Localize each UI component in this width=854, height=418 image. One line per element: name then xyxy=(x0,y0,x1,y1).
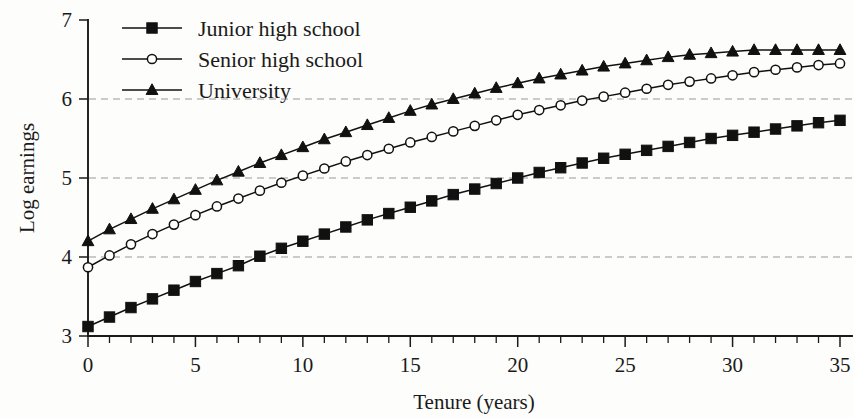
y-tick-label-3: 3 xyxy=(62,324,73,348)
data-point xyxy=(276,243,286,253)
x-tick-label-30: 30 xyxy=(722,353,743,377)
data-point xyxy=(513,173,523,183)
data-point xyxy=(491,178,501,188)
data-point xyxy=(706,133,716,143)
x-tick-label-10: 10 xyxy=(292,353,313,377)
data-point xyxy=(577,158,587,168)
legend-label: University xyxy=(198,78,291,103)
x-tick-label-20: 20 xyxy=(507,353,528,377)
data-point xyxy=(621,88,630,97)
data-point xyxy=(362,215,372,225)
data-point xyxy=(513,110,522,119)
data-point xyxy=(792,63,801,72)
data-point xyxy=(470,184,480,194)
data-point xyxy=(148,229,157,238)
series-junior-high-school xyxy=(83,115,845,332)
data-point xyxy=(556,101,565,110)
data-point xyxy=(771,65,780,74)
data-point xyxy=(770,44,782,55)
data-point xyxy=(791,44,803,55)
data-point xyxy=(706,74,715,83)
data-point xyxy=(748,44,760,55)
data-point xyxy=(190,184,202,195)
x-tick-label-5: 5 xyxy=(190,353,201,377)
data-point xyxy=(82,235,94,246)
data-point xyxy=(234,194,243,203)
data-point xyxy=(663,141,673,151)
data-point xyxy=(534,167,544,177)
data-point xyxy=(190,276,200,286)
data-point xyxy=(363,150,372,159)
legend-marker-filled-square xyxy=(147,23,157,33)
data-point xyxy=(255,186,264,195)
legend-label: Junior high school xyxy=(198,16,361,41)
x-axis-title: Tenure (years) xyxy=(413,390,535,414)
data-point xyxy=(83,321,93,331)
legend-marker-filled-triangle xyxy=(146,84,158,95)
data-point xyxy=(749,127,759,137)
data-point xyxy=(320,164,329,173)
data-point xyxy=(233,260,243,270)
legend-label: Senior high school xyxy=(198,47,363,72)
legend-marker-open-circle xyxy=(147,54,156,63)
series-path xyxy=(88,120,840,326)
legend-item-junior-high-school: Junior high school xyxy=(122,16,361,41)
data-point xyxy=(147,203,159,214)
data-point xyxy=(813,118,823,128)
data-point xyxy=(147,294,157,304)
y-tick-label-5: 5 xyxy=(62,166,73,190)
data-point xyxy=(212,268,222,278)
data-point xyxy=(341,157,350,166)
data-point xyxy=(212,202,221,211)
data-point xyxy=(492,116,501,125)
data-point xyxy=(685,77,694,86)
data-point xyxy=(83,263,92,272)
data-point xyxy=(319,229,329,239)
x-tick-label-25: 25 xyxy=(615,353,636,377)
data-point xyxy=(470,121,479,130)
data-point xyxy=(105,251,114,260)
data-point xyxy=(125,213,137,224)
data-point xyxy=(728,71,737,80)
data-point xyxy=(277,178,286,187)
data-point xyxy=(641,145,651,155)
x-tick-label-15: 15 xyxy=(400,353,421,377)
data-point xyxy=(448,189,458,199)
line-chart-canvas: 3456705101520253035Tenure (years)Log ear… xyxy=(0,0,854,418)
data-point xyxy=(792,121,802,131)
data-point xyxy=(599,92,608,101)
data-point xyxy=(255,251,265,261)
data-point xyxy=(642,84,651,93)
data-point xyxy=(835,115,845,125)
data-point xyxy=(169,220,178,229)
y-axis-title: Log earnings xyxy=(15,123,39,233)
data-point xyxy=(168,193,180,204)
data-point xyxy=(341,222,351,232)
data-point xyxy=(298,171,307,180)
x-tick-label-35: 35 xyxy=(830,353,851,377)
y-tick-label-4: 4 xyxy=(62,245,73,269)
y-tick-label-7: 7 xyxy=(62,8,73,32)
data-point xyxy=(684,137,694,147)
data-point xyxy=(535,105,544,114)
data-point xyxy=(770,124,780,134)
data-point xyxy=(727,130,737,140)
data-point xyxy=(298,236,308,246)
data-point xyxy=(104,223,116,234)
data-point xyxy=(405,202,415,212)
data-point xyxy=(620,149,630,159)
data-point xyxy=(126,302,136,312)
data-point xyxy=(578,96,587,105)
data-point xyxy=(664,80,673,89)
data-point xyxy=(427,132,436,141)
data-point xyxy=(126,240,135,249)
legend-item-senior-high-school: Senior high school xyxy=(122,47,363,72)
data-point xyxy=(814,60,823,69)
data-point xyxy=(169,285,179,295)
data-point xyxy=(104,312,114,322)
data-point xyxy=(835,59,844,68)
data-point xyxy=(406,138,415,147)
data-point xyxy=(449,127,458,136)
data-point xyxy=(555,163,565,173)
data-point xyxy=(813,44,825,55)
